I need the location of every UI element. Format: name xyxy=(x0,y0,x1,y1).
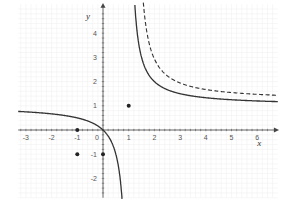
svg-text:4: 4 xyxy=(204,134,208,141)
svg-text:-1: -1 xyxy=(74,134,80,141)
svg-text:-2: -2 xyxy=(48,134,54,141)
x-axis-label: x xyxy=(256,138,261,148)
svg-text:5: 5 xyxy=(230,134,234,141)
svg-text:-3: -3 xyxy=(23,134,29,141)
svg-text:1: 1 xyxy=(127,134,131,141)
svg-text:3: 3 xyxy=(178,134,182,141)
svg-text:3: 3 xyxy=(93,54,97,61)
hyperbola-chart: -3-2-10123456-2-11234 x y xyxy=(0,0,283,205)
y-axis-label: y xyxy=(85,11,90,21)
svg-text:-1: -1 xyxy=(91,151,97,158)
svg-text:1: 1 xyxy=(93,102,97,109)
svg-text:-2: -2 xyxy=(91,175,97,182)
svg-text:0: 0 xyxy=(95,134,99,141)
svg-text:2: 2 xyxy=(152,134,156,141)
svg-text:2: 2 xyxy=(93,78,97,85)
grid xyxy=(18,4,278,198)
svg-text:4: 4 xyxy=(93,30,97,37)
